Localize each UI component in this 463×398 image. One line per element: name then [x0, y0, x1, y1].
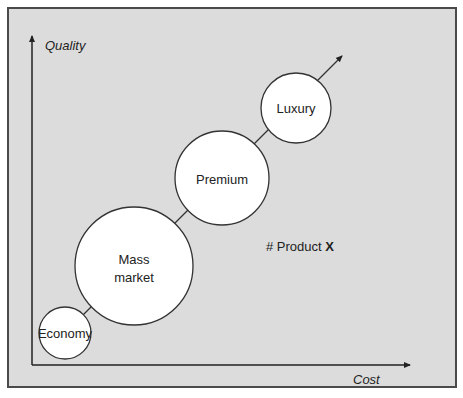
- segment-label: Economy: [38, 326, 93, 341]
- product-emphasis: X: [325, 239, 334, 254]
- positioning-diagram: Economy Mass market Premium Luxury Quali…: [0, 0, 463, 398]
- product-prefix: # Product: [266, 239, 325, 254]
- segment-mass-market: Mass market: [75, 207, 193, 325]
- segment-label: Premium: [196, 172, 248, 187]
- segment-label: Luxury: [276, 101, 316, 116]
- product-annotation: # Product X: [266, 239, 334, 254]
- segment-label: market: [114, 270, 154, 285]
- segment-label: Mass: [118, 252, 150, 267]
- segment-premium: Premium: [175, 131, 269, 225]
- segment-luxury: Luxury: [261, 73, 331, 143]
- y-axis-label: Quality: [45, 38, 87, 53]
- segment-economy: Economy: [38, 307, 93, 359]
- x-axis-label: Cost: [353, 372, 381, 387]
